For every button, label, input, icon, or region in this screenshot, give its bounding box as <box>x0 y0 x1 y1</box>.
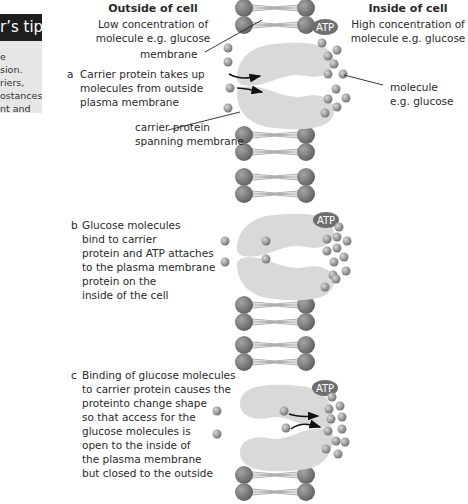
phospholipid-tail <box>252 493 298 495</box>
glucose-molecule <box>322 445 331 454</box>
step-c-line: the plasma membrane <box>82 452 235 466</box>
phospholipid-tail <box>252 342 298 344</box>
step-a-line: Carrier protein takes up <box>80 67 205 81</box>
step-a-line: plasma membrane <box>80 95 205 109</box>
phospholipid-tail <box>252 132 298 134</box>
step-c-line: open to the inside of <box>82 438 235 452</box>
phospholipid-tail <box>252 5 298 7</box>
phospholipid-head <box>235 296 253 314</box>
phospholipid-row <box>235 168 315 186</box>
glucose-molecule <box>262 255 271 264</box>
phospholipid-head <box>297 0 315 17</box>
phospholipid-tail <box>252 178 298 180</box>
phospholipid-head <box>297 168 315 186</box>
step-c-description: Binding of glucose molecules to carrier … <box>82 368 235 480</box>
atp-badge: ATP <box>312 19 338 35</box>
phospholipid-tail <box>252 476 298 478</box>
glucose-molecule <box>332 85 341 94</box>
phospholipid-head <box>297 143 315 161</box>
carrier-protein-label-line2: spanning membrane <box>135 134 244 148</box>
phospholipid-head <box>297 16 315 34</box>
glucose-molecule <box>224 104 233 113</box>
phospholipid-head <box>235 168 253 186</box>
glucose-molecule <box>330 60 339 69</box>
glucose-molecule <box>321 283 330 292</box>
glucose-molecule <box>343 237 352 246</box>
phospholipid-tail <box>252 359 298 361</box>
molecule-label-line2: e.g. glucose <box>390 94 454 108</box>
phospholipid-head <box>297 313 315 331</box>
phospholipid-tail <box>252 363 298 365</box>
glucose-molecule <box>332 275 341 284</box>
glucose-molecule <box>333 103 342 112</box>
phospholipid-head <box>235 466 253 484</box>
phospholipid-tail <box>252 306 298 308</box>
phospholipid-tail <box>252 191 298 193</box>
glucose-molecule <box>341 438 350 447</box>
step-c-line: to carrier protein causes the <box>82 382 235 396</box>
step-b-line: protein on the <box>82 274 215 288</box>
step-c-letter: c <box>71 368 77 382</box>
phospholipid-head <box>235 353 253 371</box>
step-c-line: proteinto change shape <box>82 396 235 410</box>
membrane-label: membrane <box>140 47 197 61</box>
glucose-molecule <box>221 237 230 246</box>
phospholipid-row <box>235 0 315 17</box>
glucose-molecule <box>318 39 327 48</box>
outside-cell-title: Outside of cell <box>88 2 218 16</box>
step-b-line: inside of the cell <box>82 288 215 302</box>
glucose-molecule <box>333 46 342 55</box>
glucose-molecule <box>336 402 345 411</box>
molecule-leader-line <box>344 75 383 85</box>
glucose-molecule <box>324 95 333 104</box>
step-b-line: Glucose molecules <box>82 218 215 232</box>
glucose-molecule <box>282 424 291 433</box>
phospholipid-row <box>235 313 315 331</box>
phospholipid-head <box>235 185 253 203</box>
step-a-letter: a <box>67 67 73 81</box>
phospholipid-head <box>297 353 315 371</box>
inside-cell-title: Inside of cell <box>348 2 468 16</box>
step-a-description: Carrier protein takes up molecules from … <box>80 67 205 109</box>
glucose-molecule <box>325 405 334 414</box>
glucose-molecule <box>221 258 230 267</box>
phospholipid-tail <box>252 323 298 325</box>
phospholipid-tail <box>252 195 298 197</box>
glucose-molecule <box>333 244 342 253</box>
glucose-molecule <box>328 393 337 402</box>
phospholipid-tail <box>252 149 298 151</box>
step-b-description: Glucose molecules bind to carrier protei… <box>82 218 215 302</box>
step-c-line: glucose molecules is <box>82 424 235 438</box>
glucose-molecule <box>338 425 347 434</box>
phospholipid-row <box>235 143 315 161</box>
glucose-molecule <box>324 52 333 61</box>
inside-cell-line1: High concentration of <box>346 17 468 31</box>
glucose-molecule <box>323 235 332 244</box>
phospholipid-tail <box>252 26 298 28</box>
phospholipid-tail <box>252 489 298 491</box>
glucose-molecule <box>323 247 332 256</box>
step-c-line: so that access for the <box>82 410 235 424</box>
atp-label: ATP <box>317 215 335 226</box>
atp-label: ATP <box>316 383 334 394</box>
carrier-protein-label-line1: carrier protein <box>135 120 210 134</box>
glucose-molecule <box>224 58 233 67</box>
carrier-protein-lower <box>240 428 333 471</box>
carrier-protein-lower <box>237 257 334 300</box>
glucose-molecule <box>339 70 348 79</box>
phospholipid-tail <box>252 346 298 348</box>
glucose-molecule <box>262 237 271 246</box>
molecule-label-line1: molecule <box>390 80 438 94</box>
phospholipid-head <box>297 336 315 354</box>
glucose-molecule <box>226 84 235 93</box>
phospholipid-tail <box>252 302 298 304</box>
phospholipid-tail <box>252 22 298 24</box>
carrier-protein <box>237 43 334 130</box>
glucose-molecule <box>321 109 330 118</box>
glucose-molecule <box>342 267 351 276</box>
atp-label: ATP <box>316 22 334 33</box>
phospholipid-head <box>235 336 253 354</box>
phospholipid-tail <box>252 174 298 176</box>
glucose-molecule <box>335 223 344 232</box>
step-b-letter: b <box>71 218 78 232</box>
